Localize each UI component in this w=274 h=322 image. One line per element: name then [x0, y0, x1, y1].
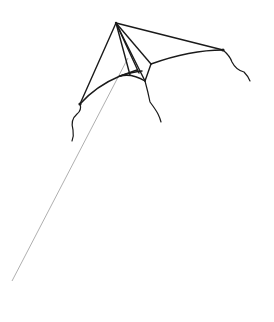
- kite-illustration: [0, 0, 274, 322]
- kite-drawing: Line drawing of a delta kite with string…: [0, 0, 274, 322]
